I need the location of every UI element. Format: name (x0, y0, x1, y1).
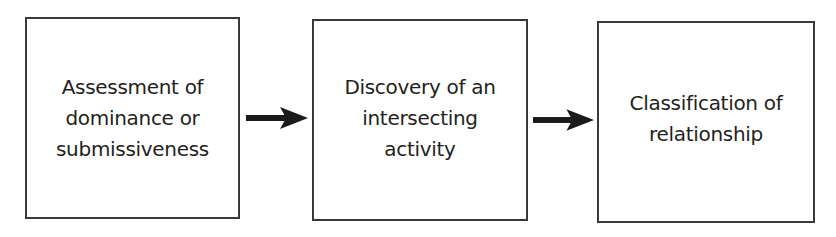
step-box-classification: Classification of relationship (597, 21, 815, 223)
arrow-right-icon (533, 108, 594, 132)
step-label-classification: Classification of relationship (622, 88, 791, 150)
arrow-right-icon (246, 106, 308, 130)
step-box-assessment: Assessment of dominance or submissivenes… (25, 17, 240, 219)
step-box-discovery: Discovery of an intersecting activity (312, 19, 528, 221)
step-label-assessment: Assessment of dominance or submissivenes… (48, 72, 217, 165)
step-label-discovery: Discovery of an intersecting activity (336, 72, 503, 165)
